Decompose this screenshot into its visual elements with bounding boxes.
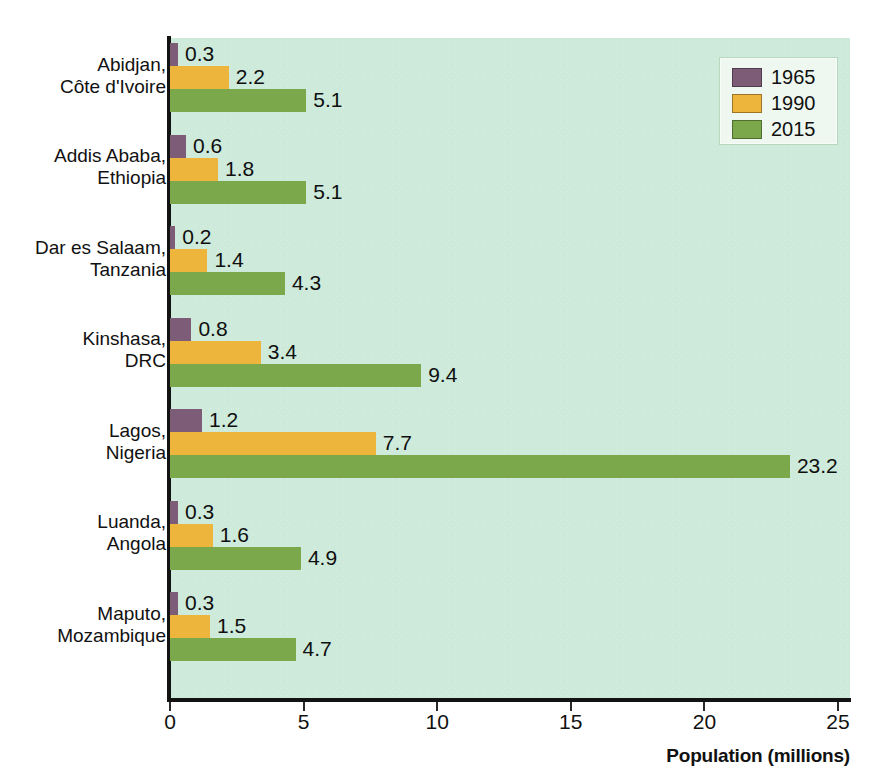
bar-value-label: 1.4 bbox=[214, 248, 243, 271]
bar-1965 bbox=[170, 592, 178, 615]
bar-1990 bbox=[170, 341, 261, 364]
bar-value-label: 5.1 bbox=[313, 180, 342, 203]
x-tick-label: 15 bbox=[559, 710, 582, 734]
x-axis-line bbox=[167, 698, 851, 702]
bar-1990 bbox=[170, 615, 210, 638]
bar-1990 bbox=[170, 249, 207, 272]
category-label: Kinshasa,DRC bbox=[83, 328, 166, 373]
bar-value-label: 0.8 bbox=[198, 317, 227, 340]
category-label-line: Côte d'Ivoire bbox=[60, 76, 166, 98]
bar-2015 bbox=[170, 272, 285, 295]
bar-1965 bbox=[170, 501, 178, 524]
bar-1965 bbox=[170, 226, 175, 249]
category-label-line: Abidjan, bbox=[60, 54, 166, 76]
category-label-line: Angola bbox=[97, 533, 166, 555]
bar-value-label: 5.1 bbox=[313, 88, 342, 111]
category-label: Luanda,Angola bbox=[97, 511, 166, 556]
bar-2015 bbox=[170, 364, 421, 387]
x-tick-label: 20 bbox=[693, 710, 716, 734]
category-label: Maputo,Mozambique bbox=[57, 603, 166, 648]
category-label: Abidjan,Côte d'Ivoire bbox=[60, 54, 166, 99]
bar-value-label: 0.6 bbox=[193, 134, 222, 157]
bar-2015 bbox=[170, 89, 306, 112]
bar-value-label: 2.2 bbox=[236, 65, 265, 88]
bar-value-label: 4.9 bbox=[308, 546, 337, 569]
bar-value-label: 23.2 bbox=[797, 454, 838, 477]
category-label-line: Dar es Salaam, bbox=[35, 237, 166, 259]
category-label-line: Addis Ababa, bbox=[54, 145, 166, 167]
bar-value-label: 1.5 bbox=[217, 614, 246, 637]
bar-2015 bbox=[170, 638, 296, 661]
bar-value-label: 4.3 bbox=[292, 271, 321, 294]
category-label: Dar es Salaam,Tanzania bbox=[35, 237, 166, 282]
legend-entry-1965: 1965 bbox=[732, 67, 816, 87]
legend-label: 2015 bbox=[771, 119, 816, 139]
x-tick-label: 5 bbox=[298, 710, 310, 734]
legend: 196519902015 bbox=[719, 57, 838, 145]
category-label-line: Mozambique bbox=[57, 625, 166, 647]
grouped-bar-chart: 0510152025 0.32.25.10.61.85.10.21.44.30.… bbox=[0, 0, 886, 774]
category-label-line: Luanda, bbox=[97, 511, 166, 533]
category-label-line: Maputo, bbox=[57, 603, 166, 625]
bar-1990 bbox=[170, 66, 229, 89]
legend-label: 1965 bbox=[771, 67, 816, 87]
bar-2015 bbox=[170, 547, 301, 570]
bar-value-label: 4.7 bbox=[303, 637, 332, 660]
category-label-line: Nigeria bbox=[106, 442, 166, 464]
bar-1965 bbox=[170, 135, 186, 158]
bar-2015 bbox=[170, 181, 306, 204]
bar-1990 bbox=[170, 524, 213, 547]
category-label-line: Lagos, bbox=[106, 420, 166, 442]
legend-entry-2015: 2015 bbox=[732, 119, 816, 139]
x-axis-title: Population (millions) bbox=[666, 745, 850, 767]
bar-1965 bbox=[170, 409, 202, 432]
bar-1990 bbox=[170, 432, 376, 455]
bar-value-label: 0.3 bbox=[185, 500, 214, 523]
bar-value-label: 9.4 bbox=[428, 363, 457, 386]
legend-swatch bbox=[732, 120, 762, 139]
bar-2015 bbox=[170, 455, 790, 478]
bar-value-label: 3.4 bbox=[268, 340, 297, 363]
category-label-line: Tanzania bbox=[35, 259, 166, 281]
bar-value-label: 0.3 bbox=[185, 591, 214, 614]
bar-value-label: 1.2 bbox=[209, 408, 238, 431]
x-tick-label: 0 bbox=[164, 710, 176, 734]
legend-swatch bbox=[732, 68, 762, 87]
x-tick-label: 25 bbox=[826, 710, 849, 734]
bar-1965 bbox=[170, 43, 178, 66]
bar-1965 bbox=[170, 318, 191, 341]
category-label: Lagos,Nigeria bbox=[106, 420, 166, 465]
bar-value-label: 0.2 bbox=[182, 225, 211, 248]
legend-label: 1990 bbox=[771, 93, 816, 113]
bar-value-label: 7.7 bbox=[383, 431, 412, 454]
bar-value-label: 1.8 bbox=[225, 157, 254, 180]
bar-value-label: 0.3 bbox=[185, 42, 214, 65]
category-label-line: Kinshasa, bbox=[83, 328, 166, 350]
category-label-line: Ethiopia bbox=[54, 167, 166, 189]
x-tick-label: 10 bbox=[426, 710, 449, 734]
category-label-line: DRC bbox=[83, 350, 166, 372]
legend-swatch bbox=[732, 94, 762, 113]
category-label: Addis Ababa,Ethiopia bbox=[54, 145, 166, 190]
bar-value-label: 1.6 bbox=[220, 523, 249, 546]
bar-1990 bbox=[170, 158, 218, 181]
legend-entry-1990: 1990 bbox=[732, 93, 816, 113]
